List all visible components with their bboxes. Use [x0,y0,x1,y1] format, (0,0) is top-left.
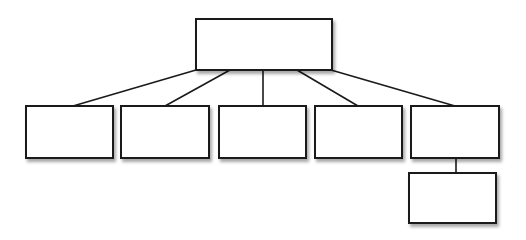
root-node [195,18,333,71]
child-node-3 [218,105,307,159]
child-node-1 [25,105,114,159]
child-node-5 [410,105,500,159]
grandchild-node-1 [408,172,497,224]
connector-root-child-1 [73,70,196,106]
child-node-4 [314,105,403,159]
child-node-2 [120,105,210,159]
org-chart-diagram [0,0,526,240]
